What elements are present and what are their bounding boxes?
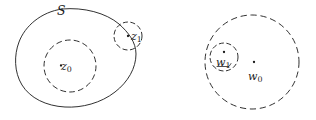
point-label-w1-var: w: [216, 56, 225, 69]
point-label-w1: w1: [216, 57, 230, 68]
point-label-z1-var: z: [131, 30, 137, 43]
point-label-z1-sub: 1: [137, 35, 142, 44]
point-z1-dot: [127, 35, 129, 37]
point-label-w0: w0: [248, 71, 262, 82]
point-label-w0-sub: 0: [257, 75, 262, 84]
point-label-z0-sub: 0: [67, 65, 72, 74]
point-w1-dot: [223, 51, 225, 53]
figure-canvas: S z0 z1 w1 w0: [0, 0, 316, 120]
figure-drawing: [0, 0, 316, 120]
point-label-z0-var: z: [61, 60, 67, 73]
point-w0-dot: [253, 61, 255, 63]
point-label-w1-sub: 1: [225, 61, 230, 70]
point-label-z1: z1: [131, 31, 142, 42]
region-S-outline: [16, 9, 136, 108]
region-label-S: S: [57, 5, 66, 18]
point-label-z0: z0: [61, 61, 72, 72]
point-label-w0-var: w: [248, 70, 257, 83]
region-label-S-text: S: [57, 3, 66, 18]
